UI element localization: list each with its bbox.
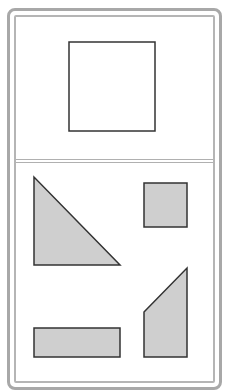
piece-small-square: [144, 183, 187, 227]
target-square: [69, 42, 155, 131]
piece-right-triangle: [34, 177, 120, 265]
piece-rectangle: [34, 328, 120, 357]
piece-trapezoid: [144, 268, 187, 357]
shapes-canvas: [0, 0, 229, 392]
